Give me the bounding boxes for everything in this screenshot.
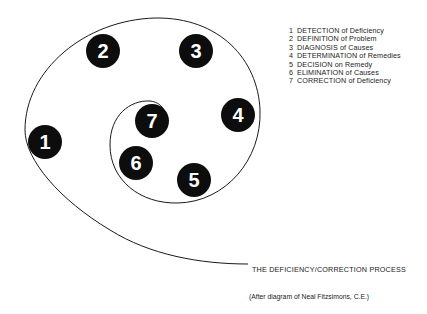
step-number: 6 [130, 152, 141, 175]
step-node-7: 7 [135, 104, 169, 138]
step-number: 7 [146, 110, 157, 133]
diagram-title: THE DEFICIENCY/CORRECTION PROCESS [252, 265, 406, 274]
diagram-credit: (After diagram of Neal Fitzsimons, C.E.) [249, 293, 369, 300]
step-node-1: 1 [28, 125, 62, 159]
step-node-4: 4 [221, 98, 255, 132]
step-node-2: 2 [86, 34, 120, 68]
step-number: 1 [39, 131, 50, 154]
step-node-number: 3 [190, 40, 201, 63]
legend-label: CORRECTION of Deficiency [297, 76, 391, 85]
step-number: 2 [97, 40, 108, 63]
step-number: 4 [232, 104, 243, 127]
legend: 1DETECTION of Deficiency 2DEFINITION of … [289, 27, 401, 86]
step-node-5: 5 [177, 163, 211, 197]
legend-item-7: 7CORRECTION of Deficiency [289, 77, 401, 85]
step-node-6: 6 [119, 146, 153, 180]
step-node-3: 3 [179, 34, 213, 68]
legend-number: 7 [289, 77, 297, 85]
step-number: 5 [188, 169, 199, 192]
